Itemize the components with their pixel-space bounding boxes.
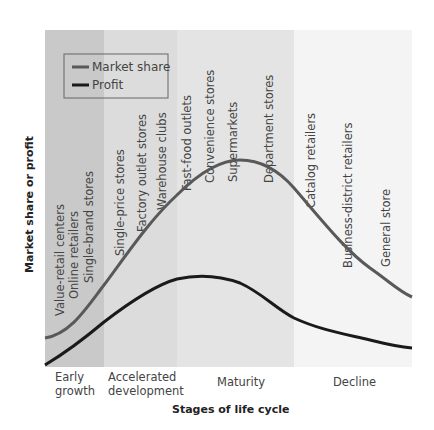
legend-label-market-share: Market share xyxy=(92,60,170,74)
stage-label-decline: Decline xyxy=(333,375,376,389)
label-factory-outlet-stores: Factory outlet stores xyxy=(135,114,149,232)
stage-label-early: Early xyxy=(55,370,84,384)
label-online-retailers: Online retailers xyxy=(67,211,81,299)
legend-label-profit: Profit xyxy=(92,78,124,92)
label-general-store: General store xyxy=(379,189,393,267)
stage-label-development: development xyxy=(108,384,184,398)
y-axis-title: Market share or profit xyxy=(23,136,36,273)
stage-label-growth: growth xyxy=(55,384,95,398)
label-value-retail-centers: Value-retail centers xyxy=(53,204,67,316)
label-business-district-retailers: Business-district retailers xyxy=(341,122,355,268)
stage-label-accelerated: Accelerated xyxy=(108,370,176,384)
label-warehouse-clubs: Warehouse clubs xyxy=(155,112,169,210)
retail-life-cycle-chart: Market share Profit Value-retail centers… xyxy=(0,0,434,430)
band-maturity xyxy=(177,30,294,367)
stage-label-maturity: Maturity xyxy=(217,375,265,389)
label-catalog-retailers: Catalog retailers xyxy=(304,113,318,208)
label-fast-food-outlets: Fast-food outlets xyxy=(180,95,194,191)
label-supermarkets: Supermarkets xyxy=(226,102,240,182)
label-single-price-stores: Single-price stores xyxy=(113,149,127,256)
x-axis-title: Stages of life cycle xyxy=(172,403,290,416)
label-single-brand-stores: Single-brand stores xyxy=(82,171,96,283)
